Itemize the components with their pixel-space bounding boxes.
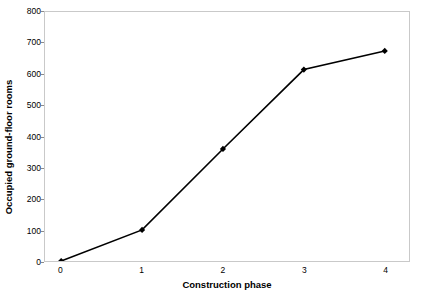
- x-tick-label: 2: [221, 266, 226, 275]
- x-tick-label: 1: [139, 266, 144, 275]
- x-tick-label: 0: [58, 266, 63, 275]
- x-tick-label: 3: [302, 266, 307, 275]
- x-tick-label: 4: [383, 266, 388, 275]
- x-axis-title: Construction phase: [44, 279, 410, 290]
- line-chart: Occupied ground-floor rooms 010020030040…: [0, 0, 428, 294]
- x-axis-tick-labels: 01234: [0, 0, 428, 294]
